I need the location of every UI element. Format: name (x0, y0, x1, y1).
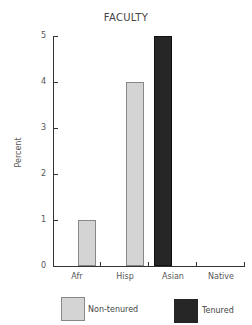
x-tick (196, 262, 197, 266)
y-tick (53, 128, 58, 129)
x-tick (100, 262, 101, 266)
x-axis (53, 266, 245, 267)
legend-swatch-non-tenured (61, 297, 85, 321)
y-tick-label: 0 (36, 261, 46, 270)
y-tick (53, 220, 58, 221)
x-tick-label: Hisp (101, 272, 149, 281)
legend-label-tenured: Tenured (202, 306, 234, 315)
y-tick (53, 82, 58, 83)
y-axis-label: Percent (14, 133, 23, 173)
x-tick (244, 262, 245, 266)
bar-afr-non-tenured (78, 220, 96, 266)
bar-hisp-non-tenured (126, 82, 144, 266)
x-tick-label: Asian (149, 272, 197, 281)
x-tick-label: Afr (53, 272, 101, 281)
y-tick-label: 3 (36, 123, 46, 132)
y-axis (53, 36, 54, 266)
y-tick-label: 4 (36, 77, 46, 86)
y-tick (53, 266, 58, 267)
bar-asian-tenured (154, 36, 172, 266)
legend-label-non-tenured: Non-tenured (88, 305, 138, 314)
y-tick (53, 36, 58, 37)
x-tick (148, 262, 149, 266)
y-tick-label: 1 (36, 215, 46, 224)
legend-swatch-tenured (174, 299, 198, 323)
y-tick (53, 174, 58, 175)
y-tick-label: 2 (36, 169, 46, 178)
y-tick-label: 5 (36, 31, 46, 40)
x-tick-label: Native (197, 272, 245, 281)
chart-title: FACULTY (0, 12, 252, 23)
